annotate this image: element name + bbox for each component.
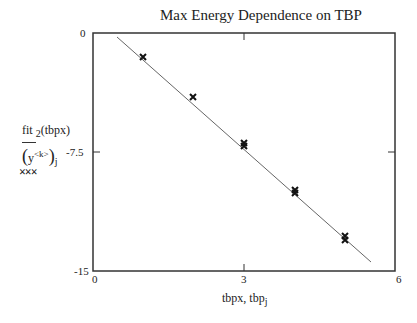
legend-line-sample bbox=[22, 142, 36, 143]
x-tick-label-0: 0 bbox=[92, 273, 98, 285]
legend-fit-arg: (tbpx) bbox=[41, 123, 70, 137]
plot-area bbox=[0, 0, 417, 323]
x-tick-label-6: 6 bbox=[396, 273, 402, 285]
x-axis-label: tbpx, tbpj bbox=[222, 291, 267, 307]
y-tick-label-bottom: -15 bbox=[74, 265, 89, 277]
y-tick-label-0: 0 bbox=[80, 27, 86, 39]
legend-marker-sample: ××× bbox=[19, 165, 37, 179]
x-tick-label-3: 3 bbox=[241, 273, 247, 285]
fit-line bbox=[117, 37, 371, 262]
legend-fit-name: fit bbox=[22, 123, 33, 137]
x-axis-label-main: tbpx, tbp bbox=[222, 291, 265, 305]
legend-data-sub: j bbox=[55, 156, 58, 167]
y-tick-label-mid: -7.5 bbox=[66, 146, 83, 158]
x-axis-label-sub: j bbox=[265, 296, 268, 307]
legend-fit-label: fit 2(tbpx) bbox=[22, 123, 70, 141]
plot-frame bbox=[93, 33, 395, 271]
legend-data-sup: <k> bbox=[34, 149, 49, 159]
